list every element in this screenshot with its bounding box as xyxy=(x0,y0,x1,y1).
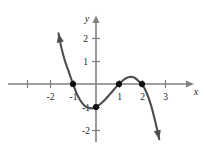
x-tick-label-2: 2 xyxy=(140,92,145,102)
y-axis-label: y xyxy=(84,13,90,24)
x-axis xyxy=(8,80,194,87)
x-tick-label-3: 3 xyxy=(163,92,168,102)
x-axis-label: x xyxy=(193,86,199,97)
y-tick-label-2: 2 xyxy=(83,34,88,44)
y-axis xyxy=(93,16,100,143)
cubic-function-graph: -2 -1 1 2 3 2 1 -1 -2 x y xyxy=(0,0,205,151)
data-point xyxy=(70,81,76,87)
data-point xyxy=(116,81,122,87)
x-tick-label-1: 1 xyxy=(117,92,122,102)
data-point xyxy=(93,104,99,110)
y-axis-arrowhead-icon xyxy=(93,16,100,24)
x-tick-label--2: -2 xyxy=(47,92,55,102)
data-point xyxy=(139,81,145,87)
y-tick-label--2: -2 xyxy=(82,126,90,136)
y-tick-label-1: 1 xyxy=(83,57,88,67)
graph-figure: -2 -1 1 2 3 2 1 -1 -2 x y xyxy=(0,0,205,151)
